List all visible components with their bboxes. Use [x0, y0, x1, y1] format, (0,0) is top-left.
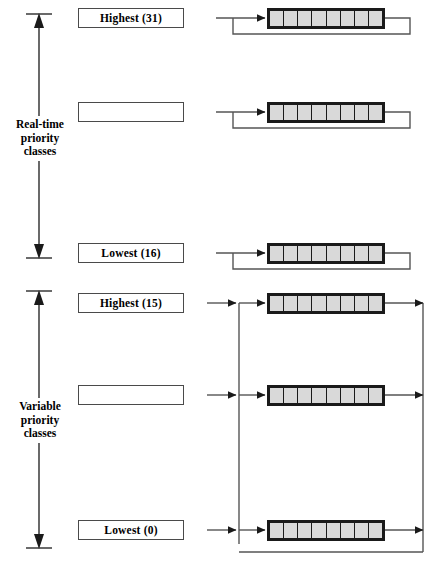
queue-cell — [341, 11, 355, 26]
queue-var-middle — [267, 385, 385, 406]
queue-cell — [270, 388, 284, 403]
queue-cell — [327, 296, 341, 311]
wiring-diagram — [0, 0, 438, 561]
queue-var-highest — [267, 293, 385, 314]
queue-cell — [341, 105, 355, 120]
queue-cell — [312, 105, 326, 120]
queue-cell — [298, 523, 312, 538]
queue-cell — [341, 246, 355, 261]
queue-cell — [312, 246, 326, 261]
queue-rt-highest — [267, 8, 385, 29]
queue-cell — [298, 246, 312, 261]
group-label-line: priority — [3, 414, 77, 428]
queue-cell — [341, 388, 355, 403]
queue-cell — [355, 246, 369, 261]
queue-cell — [298, 388, 312, 403]
queue-cell — [270, 246, 284, 261]
group-label-real-time: Real-time priority classes — [2, 116, 78, 161]
queue-cell — [369, 388, 382, 403]
queue-cell — [284, 105, 298, 120]
queue-cell — [355, 296, 369, 311]
priority-label-var-middle — [78, 385, 184, 405]
queue-cell — [312, 11, 326, 26]
priority-label-var-lowest: Lowest (0) — [78, 520, 184, 540]
queue-cell — [369, 246, 382, 261]
queue-cell — [284, 296, 298, 311]
queue-cell — [298, 296, 312, 311]
queue-cell — [327, 11, 341, 26]
queue-cell — [369, 11, 382, 26]
queue-cell — [355, 11, 369, 26]
queue-cell — [284, 388, 298, 403]
priority-label-rt-lowest: Lowest (16) — [78, 243, 184, 263]
queue-cell — [284, 246, 298, 261]
queue-cell — [355, 523, 369, 538]
queue-cell — [284, 11, 298, 26]
queue-cell — [270, 11, 284, 26]
group-label-line: classes — [3, 145, 77, 159]
queue-rt-lowest — [267, 243, 385, 264]
queue-cell — [369, 105, 382, 120]
queue-cell — [298, 105, 312, 120]
queue-cell — [298, 11, 312, 26]
group-label-line: Real-time — [3, 118, 77, 132]
queue-cell — [270, 105, 284, 120]
queue-cell — [355, 388, 369, 403]
queue-cell — [327, 105, 341, 120]
priority-label-var-highest: Highest (15) — [78, 293, 184, 313]
queue-cell — [312, 296, 326, 311]
queue-cell — [327, 388, 341, 403]
group-label-line: priority — [3, 132, 77, 146]
queue-cell — [341, 296, 355, 311]
queue-rt-middle — [267, 102, 385, 123]
priority-queue-diagram: Real-time priority classes Variable prio… — [0, 0, 438, 561]
queue-cell — [270, 523, 284, 538]
variable-right-bus — [239, 303, 423, 552]
queue-cell — [355, 105, 369, 120]
priority-label-rt-middle — [78, 102, 184, 122]
queue-var-lowest — [267, 520, 385, 541]
priority-label-rt-highest: Highest (31) — [78, 8, 184, 28]
group-label-variable: Variable priority classes — [2, 398, 78, 443]
queue-cell — [327, 523, 341, 538]
queue-cell — [369, 296, 382, 311]
queue-cell — [312, 523, 326, 538]
queue-cell — [312, 388, 326, 403]
queue-cell — [327, 246, 341, 261]
queue-cell — [341, 523, 355, 538]
queue-cell — [270, 296, 284, 311]
group-label-line: Variable — [3, 400, 77, 414]
group-label-line: classes — [3, 427, 77, 441]
queue-cell — [284, 523, 298, 538]
queue-cell — [369, 523, 382, 538]
